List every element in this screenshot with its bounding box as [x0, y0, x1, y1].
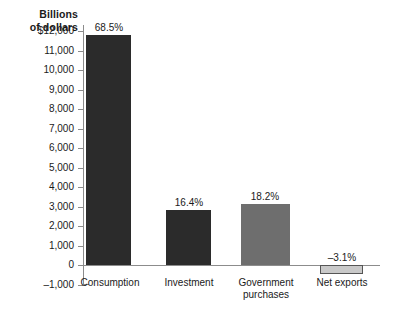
bar-value-label: –3.1% — [312, 252, 372, 263]
bar-consumption — [86, 35, 131, 265]
bar-government-purchases — [241, 204, 290, 265]
bar-value-label: 18.2% — [234, 191, 296, 202]
x-category-label: Net exports — [298, 277, 386, 289]
bar-investment — [166, 210, 211, 265]
bars-layer: 68.5%Consumption16.4%Investment18.2%Gove… — [0, 0, 398, 317]
bar-chart: Billions of dollars $12,00011,00010,0009… — [0, 0, 398, 317]
bar-net-exports — [320, 265, 363, 274]
bar-value-label: 16.4% — [158, 197, 220, 208]
bar-value-label: 68.5% — [78, 22, 140, 33]
